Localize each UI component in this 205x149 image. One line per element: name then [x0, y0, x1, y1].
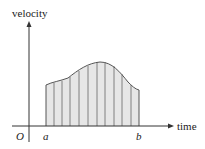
y-axis-label: velocity	[12, 7, 48, 19]
x-axis-label: time	[177, 120, 197, 132]
velocity-time-diagram: velocity time O a b	[0, 0, 205, 149]
x-axis-arrow-icon	[168, 124, 174, 129]
y-axis-arrow-icon	[27, 21, 32, 27]
right-bound-label: b	[136, 130, 142, 142]
area-under-curve	[46, 62, 139, 126]
left-bound-label: a	[43, 130, 49, 142]
origin-label: O	[16, 130, 24, 142]
